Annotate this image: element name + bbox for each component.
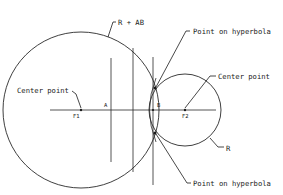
label-point-on-hyperbola-top: Point on hyperbola (193, 27, 271, 36)
focus-f2-point (184, 109, 186, 111)
leader-r-plus-ab (108, 22, 116, 37)
leader-point-top (156, 31, 190, 87)
leader-center-left (72, 91, 81, 108)
leader-center-right (185, 76, 216, 108)
focus-f1-point (80, 109, 82, 111)
label-center-point-right: Center point (218, 72, 270, 81)
label-center-point-left: Center point (17, 86, 69, 95)
leader-r (210, 138, 224, 147)
label-point-on-hyperbola-bottom: Point on hyperbola (193, 179, 271, 188)
hyperbola-construction-diagram: R + AB Point on hyperbola Center point C… (0, 0, 283, 195)
label-f2: F2 (182, 113, 189, 119)
label-f1: F1 (73, 113, 80, 119)
leader-point-bottom (156, 134, 191, 183)
vertex-b-point (152, 109, 154, 111)
label-r-plus-ab: R + AB (118, 18, 144, 27)
label-a: A (104, 102, 108, 108)
label-b: B (157, 102, 161, 108)
label-r: R (226, 144, 231, 153)
